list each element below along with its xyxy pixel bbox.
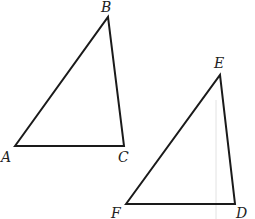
vertex-label-b: B — [101, 0, 111, 14]
geometry-figure: A B C E F D — [0, 0, 255, 219]
triangles-drawing — [0, 0, 255, 219]
triangle-abc — [15, 17, 124, 146]
vertex-label-e: E — [214, 56, 224, 70]
triangle-efd — [126, 75, 235, 204]
vertex-label-a: A — [1, 150, 11, 164]
vertex-label-f: F — [111, 206, 121, 219]
vertex-label-c: C — [118, 150, 129, 164]
vertex-label-d: D — [236, 206, 247, 219]
